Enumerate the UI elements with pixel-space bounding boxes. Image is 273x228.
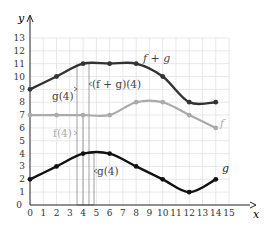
data-point bbox=[107, 113, 112, 118]
y-tick-label: 12 bbox=[14, 46, 25, 56]
x-tick-label: 7 bbox=[120, 208, 126, 218]
x-tick-label: 4 bbox=[80, 208, 86, 218]
x-tick-label: 10 bbox=[157, 208, 169, 218]
x-tick-label: 9 bbox=[147, 208, 153, 218]
data-point bbox=[187, 190, 192, 195]
y-tick-label: 8 bbox=[19, 97, 25, 107]
y-tick-label: 4 bbox=[19, 149, 25, 159]
data-point bbox=[134, 100, 139, 105]
y-tick-label: 6 bbox=[19, 123, 25, 133]
data-point bbox=[81, 113, 86, 118]
data-point bbox=[160, 177, 165, 182]
fg-curve-label: f + g bbox=[142, 52, 170, 65]
y-tick-label: 11 bbox=[14, 59, 25, 69]
data-point bbox=[134, 164, 139, 169]
data-point bbox=[28, 177, 33, 182]
g4-top-annotation: g(4) bbox=[52, 90, 74, 102]
data-point bbox=[213, 126, 218, 131]
y-tick-label: 1 bbox=[19, 187, 25, 197]
data-point bbox=[81, 61, 86, 66]
y-tick-label: 0 bbox=[16, 200, 22, 210]
data-point bbox=[160, 74, 165, 79]
data-point bbox=[187, 113, 192, 118]
x-axis-label: x bbox=[253, 208, 260, 221]
data-point bbox=[54, 74, 59, 79]
y-axis-label: y bbox=[17, 12, 25, 25]
data-point bbox=[107, 61, 112, 66]
data-point bbox=[187, 100, 192, 105]
data-point bbox=[107, 151, 112, 156]
x-tick-label: 2 bbox=[54, 208, 60, 218]
x-tick-label: 13 bbox=[197, 208, 209, 218]
data-point bbox=[134, 61, 139, 66]
x-tick-label: 3 bbox=[67, 208, 73, 218]
g4-bottom-annotation: g(4) bbox=[97, 165, 119, 177]
x-tick-label: 1 bbox=[40, 208, 46, 218]
data-point bbox=[213, 177, 218, 182]
y-tick-label: 9 bbox=[19, 84, 25, 94]
tick-labels: 0123456789101112131415012345678910111213 bbox=[14, 33, 236, 218]
data-point bbox=[160, 100, 165, 105]
data-point bbox=[81, 151, 86, 156]
y-tick-label: 13 bbox=[14, 33, 26, 43]
x-tick-label: 12 bbox=[184, 208, 195, 218]
x-tick-label: 6 bbox=[107, 208, 113, 218]
y-tick-label: 3 bbox=[19, 161, 25, 171]
y-tick-label: 2 bbox=[19, 174, 25, 184]
data-point bbox=[28, 87, 33, 92]
x-tick-label: 14 bbox=[210, 208, 222, 218]
f4-annotation: f(4) bbox=[53, 127, 72, 139]
g-curve-label: g bbox=[222, 162, 229, 175]
function-sum-chart: x y f + g f g (f + g)(4) g(4) f(4) g(4) … bbox=[0, 0, 273, 228]
y-tick-label: 5 bbox=[19, 136, 25, 146]
data-point bbox=[213, 100, 218, 105]
data-point bbox=[54, 113, 59, 118]
y-tick-label: 10 bbox=[14, 72, 26, 82]
x-tick-label: 5 bbox=[93, 208, 99, 218]
x-tick-label: 15 bbox=[223, 208, 235, 218]
data-point bbox=[28, 113, 33, 118]
data-point bbox=[54, 164, 59, 169]
fg4-annotation: (f + g)(4) bbox=[92, 78, 141, 90]
x-tick-label: 0 bbox=[27, 208, 33, 218]
y-tick-label: 7 bbox=[19, 110, 25, 120]
x-tick-label: 11 bbox=[170, 208, 181, 218]
x-tick-label: 8 bbox=[133, 208, 139, 218]
